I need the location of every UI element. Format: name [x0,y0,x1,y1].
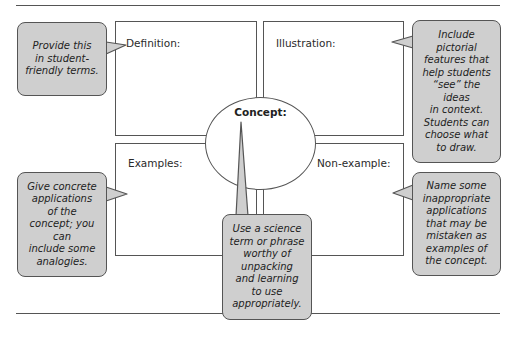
illustration-callout-text: Include pictorial features that help stu… [422,29,490,154]
concept-callout: Use a science term or phrase worthy of u… [222,214,312,320]
definition-callout: Provide this in student- friendly terms. [17,22,107,96]
concept-pointer [236,122,248,216]
definition-callout-text: Provide this in student- friendly terms. [25,40,98,78]
illustration-pointer [392,36,413,48]
examples-pointer [106,187,127,201]
examples-callout: Give concrete applications of the concep… [17,172,107,277]
non-example-callout: Name some inappropriate applications tha… [412,172,501,276]
definition-pointer [106,42,126,54]
concept-callout-text: Use a science term or phrase worthy of u… [230,223,305,311]
examples-callout-text: Give concrete applications of the concep… [27,181,97,269]
illustration-callout: Include pictorial features that help stu… [412,20,501,163]
non-example-pointer [393,185,413,200]
non-example-callout-text: Name some inappropriate applications tha… [423,180,491,268]
